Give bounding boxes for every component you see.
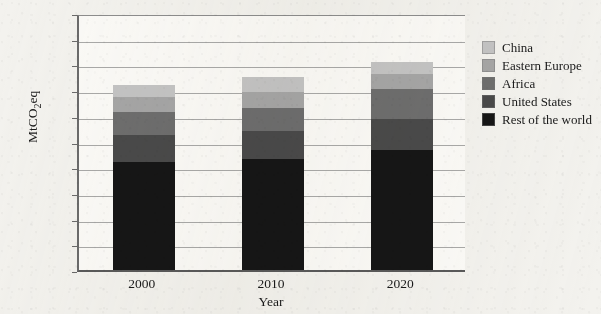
bar-segment [113, 97, 175, 112]
plot-area [77, 15, 465, 272]
legend-item-china[interactable]: China [482, 40, 592, 54]
bar-segment [242, 77, 304, 92]
gridline [79, 42, 465, 43]
y-tick-mark [72, 15, 77, 16]
legend-item-united-states[interactable]: United States [482, 94, 592, 108]
bar-2000 [113, 85, 175, 270]
legend-label: China [502, 41, 533, 54]
bar-segment [242, 108, 304, 132]
x-tick-label-2010: 2010 [226, 276, 316, 292]
y-tick-mark [72, 144, 77, 145]
y-axis-title-post: eq [25, 91, 40, 104]
bar-segment [371, 62, 433, 74]
chart-legend: ChinaEastern EuropeAfricaUnited StatesRe… [482, 40, 592, 126]
y-tick-mark [72, 272, 77, 273]
y-tick-mark [72, 41, 77, 42]
x-tick-label-2020: 2020 [355, 276, 445, 292]
legend-label: United States [502, 95, 572, 108]
legend-label: Eastern Europe [502, 59, 582, 72]
bar-2020 [371, 62, 433, 270]
bar-segment [371, 150, 433, 270]
x-tick-label-2000: 2000 [97, 276, 187, 292]
y-tick-mark [72, 92, 77, 93]
legend-item-eastern-europe[interactable]: Eastern Europe [482, 58, 592, 72]
legend-item-africa[interactable]: Africa [482, 76, 592, 90]
bar-segment [371, 74, 433, 89]
bar-segment [371, 89, 433, 120]
legend-swatch-icon [482, 113, 495, 126]
legend-label: Rest of the world [502, 113, 592, 126]
y-tick-mark [72, 221, 77, 222]
bar-segment [242, 131, 304, 159]
y-axis-title: MtCO2eq [25, 57, 43, 177]
y-tick-mark [72, 169, 77, 170]
bar-segment [113, 112, 175, 135]
y-tick-mark [72, 195, 77, 196]
y-tick-mark [72, 246, 77, 247]
bar-2010 [242, 77, 304, 270]
y-axis-title-pre: MtCO [25, 108, 40, 143]
bar-segment [113, 85, 175, 97]
y-axis-title-sub: 2 [32, 103, 43, 108]
legend-swatch-icon [482, 77, 495, 90]
bar-segment [242, 92, 304, 107]
bar-segment [242, 159, 304, 270]
bar-segment [113, 135, 175, 162]
legend-swatch-icon [482, 41, 495, 54]
y-tick-mark [72, 66, 77, 67]
legend-swatch-icon [482, 95, 495, 108]
bar-segment [371, 119, 433, 150]
bar-segment [113, 162, 175, 270]
x-axis-title: Year [77, 294, 465, 310]
legend-swatch-icon [482, 59, 495, 72]
legend-item-rest-of-the-world[interactable]: Rest of the world [482, 112, 592, 126]
y-tick-mark [72, 118, 77, 119]
legend-label: Africa [502, 77, 535, 90]
stacked-bar-chart: MtCO2eq 01002003004005006007008009001,00… [0, 0, 601, 314]
